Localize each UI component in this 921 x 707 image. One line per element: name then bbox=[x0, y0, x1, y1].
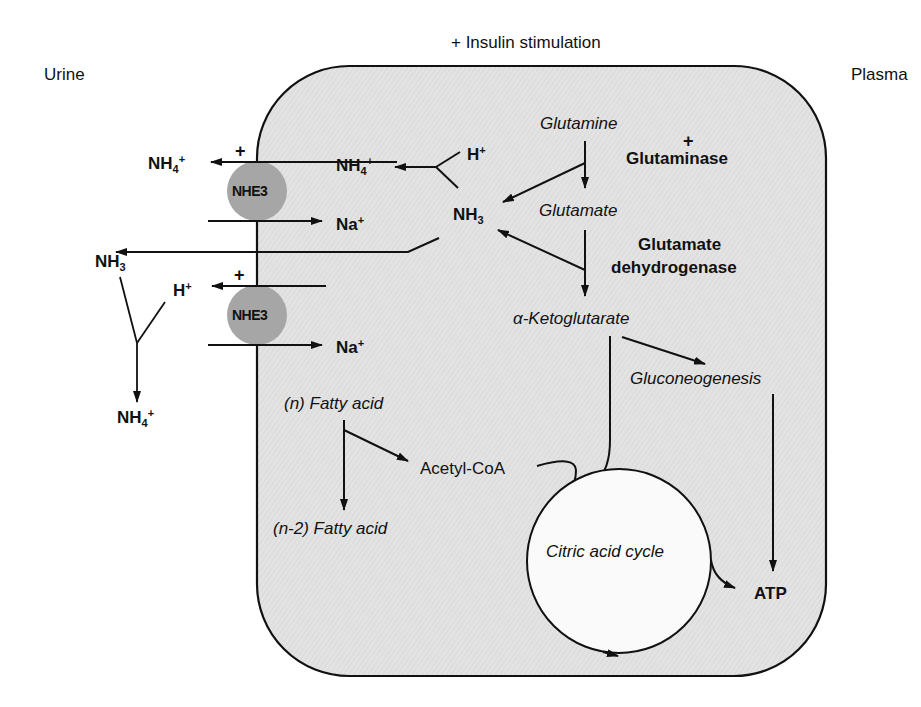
acetyl-coa-label: Acetyl-CoA bbox=[420, 460, 505, 477]
citric-acid-cycle-circle bbox=[527, 469, 711, 653]
alpha-ketoglutarate-label: α-Ketoglutarate bbox=[513, 310, 630, 327]
fatty-acid-n-label: (n) Fatty acid bbox=[284, 395, 383, 412]
nhe3-label-top: NHE3 bbox=[232, 184, 267, 198]
glutamate-label: Glutamate bbox=[539, 202, 617, 219]
glutaminase-plus: + bbox=[683, 132, 694, 150]
cell-na-top: Na+ bbox=[336, 215, 364, 233]
cell-nh3: NH3 bbox=[453, 206, 484, 226]
fatty-acid-n2-label: (n-2) Fatty acid bbox=[273, 520, 387, 537]
stimulation-plus-top: + bbox=[235, 142, 246, 160]
urine-nh4-top: NH4+ bbox=[148, 154, 185, 175]
urine-h-plus: H+ bbox=[173, 281, 192, 299]
urine-compartment-label: Urine bbox=[44, 66, 85, 83]
gdh-label-line2: dehydrogenase bbox=[611, 259, 737, 276]
insulin-stimulation-label: + Insulin stimulation bbox=[451, 34, 601, 51]
urine-nh4-bottom: NH4+ bbox=[117, 408, 154, 429]
glutaminase-label: Glutaminase bbox=[626, 150, 728, 167]
nhe3-label-bottom: NHE3 bbox=[232, 308, 267, 322]
stimulation-plus-mid: + bbox=[234, 266, 245, 284]
gdh-label-line1: Glutamate bbox=[638, 236, 721, 253]
gluconeogenesis-label: Gluconeogenesis bbox=[630, 370, 761, 387]
atp-label: ATP bbox=[754, 585, 787, 602]
cell-nh4: NH4+ bbox=[336, 156, 373, 177]
cell-h-plus: H+ bbox=[467, 145, 486, 163]
citric-acid-cycle-label: Citric acid cycle bbox=[546, 543, 664, 560]
cell-na-bottom: Na+ bbox=[336, 338, 364, 356]
glutamine-label: Glutamine bbox=[540, 115, 617, 132]
renal-ammoniagenesis-diagram: + Insulin stimulation Urine Plasma NHE3 … bbox=[0, 0, 921, 707]
plasma-compartment-label: Plasma bbox=[851, 66, 908, 83]
urine-nh3: NH3 bbox=[95, 253, 126, 273]
